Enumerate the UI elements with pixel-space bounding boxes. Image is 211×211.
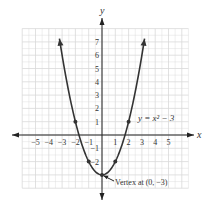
grid: [22, 29, 188, 189]
x-tick-label: 4: [153, 138, 157, 147]
tick-labels: −5−4−3−2−1123457654321−1−2: [31, 38, 170, 167]
equation-label: y = x² − 3: [137, 113, 175, 123]
x-tick-label: −4: [45, 138, 54, 147]
y-tick-label: 5: [95, 65, 99, 74]
y-tick-label: −2: [90, 158, 99, 167]
x-tick-label: 3: [140, 138, 144, 147]
axes: [12, 18, 194, 200]
parabola-chart: −5−4−3−2−1123457654321−1−2 x y y = x² − …: [0, 0, 211, 211]
x-axis-right-arrow-icon: [187, 133, 194, 138]
y-axis-label: y: [99, 5, 105, 16]
y-tick-label: 4: [95, 78, 99, 87]
vertex-annotation: Vertex at (0, −3): [104, 176, 168, 188]
x-tick-label: 1: [113, 138, 117, 147]
y-tick-label: 1: [95, 118, 99, 127]
data-point: [73, 120, 77, 124]
y-tick-label: −1: [90, 144, 99, 153]
x-tick-label: −2: [71, 138, 80, 147]
data-point: [100, 173, 104, 177]
y-axis-down-arrow-icon: [100, 193, 105, 200]
y-tick-label: 6: [95, 51, 99, 60]
x-axis-left-arrow-icon: [12, 133, 19, 138]
x-tick-label: −3: [58, 138, 67, 147]
x-tick-label: 2: [127, 138, 131, 147]
data-point: [87, 160, 91, 164]
x-axis-label: x: [196, 129, 202, 140]
data-point: [113, 160, 117, 164]
y-axis-up-arrow-icon: [100, 18, 105, 25]
x-tick-label: 5: [167, 138, 171, 147]
y-tick-label: 7: [95, 38, 99, 47]
x-tick-label: −5: [31, 138, 40, 147]
y-tick-label: 2: [95, 104, 99, 113]
data-point: [127, 120, 131, 124]
curve-arrow-icon: [58, 39, 64, 46]
curve-arrow-icon: [141, 39, 147, 46]
vertex-label: Vertex at (0, −3): [115, 178, 168, 187]
y-tick-label: 3: [95, 91, 99, 100]
